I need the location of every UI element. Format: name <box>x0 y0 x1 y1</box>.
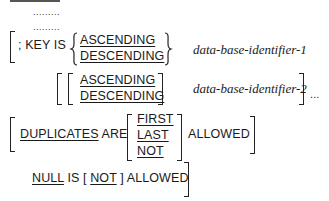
allowed-keyword: ALLOWED <box>188 127 250 141</box>
optional-bracket-close <box>250 116 255 154</box>
duplicates-are-keyword: DUPLICATES ARE <box>20 127 127 141</box>
optional-bracket-open <box>57 73 62 105</box>
optional-bracket-open <box>10 31 15 63</box>
bracket-open: [ <box>83 171 87 185</box>
optional-bracket-close <box>158 73 163 105</box>
optional-bracket-close <box>299 73 304 105</box>
ascending-option: ASCENDING <box>80 73 155 87</box>
left-brace-icon <box>70 33 80 65</box>
optional-bracket-close <box>177 114 182 161</box>
are-keyword: ARE <box>101 127 127 141</box>
repeat-ellipsis: ... <box>310 87 319 101</box>
ellipsis-row-1: ......... <box>33 9 60 15</box>
top-rule <box>10 0 60 2</box>
descending-option: DESCENDING <box>80 49 164 63</box>
right-brace-icon <box>162 33 172 65</box>
optional-bracket-open <box>10 117 15 152</box>
key-is-keyword: ; KEY IS <box>18 38 66 52</box>
last-option: LAST <box>137 128 169 142</box>
ascending-option: ASCENDING <box>80 33 155 47</box>
is-keyword: IS <box>67 171 79 185</box>
duplicates-keyword: DUPLICATES <box>20 127 99 141</box>
optional-bracket-close <box>184 162 189 197</box>
bracket-close: ] <box>120 171 124 185</box>
data-base-identifier-2: data-base-identifier-2 <box>193 82 307 96</box>
null-keyword: NULL <box>32 171 64 185</box>
first-option: FIRST <box>137 112 174 126</box>
optional-bracket-open <box>68 73 73 105</box>
not-option: NOT <box>137 144 164 158</box>
ellipsis-row-2: ......... <box>33 24 60 30</box>
data-base-identifier-1: data-base-identifier-1 <box>193 43 307 57</box>
not-keyword: NOT <box>90 171 116 185</box>
null-clause: NULL IS [ NOT ] ALLOWED <box>32 171 189 185</box>
descending-option: DESCENDING <box>80 89 164 103</box>
optional-bracket-open <box>127 114 132 161</box>
allowed-keyword: ALLOWED <box>127 171 189 185</box>
